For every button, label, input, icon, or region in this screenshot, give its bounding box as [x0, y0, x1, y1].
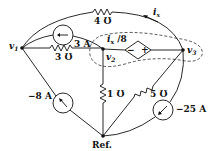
node-v3-label: v3: [187, 45, 196, 56]
node-v3-dot: [181, 48, 185, 52]
dep-minus-sign: −: [127, 45, 135, 55]
circuit-svg: 4 Ʊ ix 3 A 3 Ʊ − + ix /8 1 Ʊ: [0, 0, 221, 151]
node-v2-dot: [101, 47, 105, 51]
node-ref-dot: [101, 134, 105, 138]
dependent-source-label: ix /8: [107, 34, 127, 45]
source-3a-label: 3 A: [74, 39, 91, 49]
resistor-1-ohm-branch: [100, 49, 106, 136]
resistor-5-label: 5 Ʊ: [150, 89, 167, 99]
node-v1-dot: [20, 46, 24, 50]
circuit-diagram: 4 Ʊ ix 3 A 3 Ʊ − + ix /8 1 Ʊ: [0, 0, 221, 151]
source-minus-25a-label: −25 A: [176, 104, 207, 114]
dep-plus-sign: +: [141, 45, 149, 55]
resistor-4-label: 4 Ʊ: [94, 16, 111, 26]
node-ref-label: Ref.: [92, 140, 112, 150]
resistor-3-label: 3 Ʊ: [55, 52, 72, 62]
node-v2-label: v2: [106, 52, 115, 63]
resistor-1-label: 1 Ʊ: [107, 89, 124, 99]
node-v1-label: v1: [9, 41, 18, 52]
source-minus-8a-label: −8 A: [28, 91, 53, 101]
ix-label: ix: [153, 7, 160, 18]
